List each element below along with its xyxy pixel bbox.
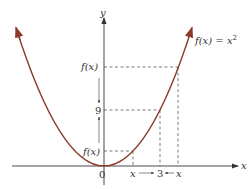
x-axis-label: x: [241, 160, 247, 171]
parabola-left-arrow-icon: [16, 28, 20, 40]
x-tick-left-label: x: [130, 168, 136, 179]
function-label: f(x) = x2: [194, 34, 237, 46]
parabola-figure: y x 0 f(x) 9 f(x) x 3 x f(x) = x2: [0, 0, 251, 189]
diagram-canvas: y x 0 f(x) 9 f(x) x 3 x f(x) = x2: [0, 0, 251, 189]
y-tick-upper-label: f(x): [80, 61, 98, 72]
origin-label: 0: [99, 169, 105, 180]
function-label-base: f(x) = x: [194, 35, 233, 46]
x-tick-right-label: x: [176, 168, 182, 179]
y-tick-lower-label: f(x): [82, 146, 100, 157]
function-label-exponent: 2: [233, 34, 237, 42]
y-axis-label: y: [99, 7, 106, 18]
x-tick-three-label: 3: [157, 168, 163, 179]
y-tick-nine-label: 9: [95, 105, 101, 116]
dashed-guides: [104, 67, 178, 166]
